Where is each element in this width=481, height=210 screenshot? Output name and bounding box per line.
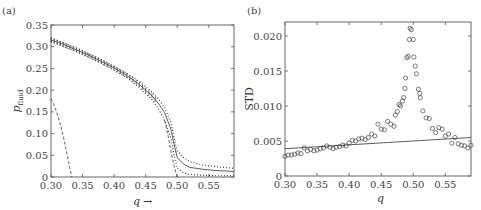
panel-b-series — [283, 26, 473, 158]
panel-a-line-series — [51, 99, 72, 177]
data-point — [373, 134, 377, 138]
panel-a-y-tick-label: 0.35 — [26, 20, 48, 31]
data-point — [403, 86, 407, 90]
panel-a-y-tick-label: 0.20 — [26, 85, 48, 96]
panel-a-axes-frame — [51, 25, 234, 177]
panel-b-y-tick-label: 0.010 — [253, 101, 282, 112]
panel-a-line-series — [51, 38, 234, 168]
data-point — [392, 124, 396, 128]
panel-a-x-tick-label: 0.45 — [135, 180, 157, 191]
panel-a-line-series — [51, 42, 234, 176]
panel-b-x-tick-label: 0.50 — [402, 179, 424, 190]
data-point — [376, 122, 380, 126]
panel-a-x-tick-label: 0.30 — [40, 180, 62, 191]
panel-a-x-ticks: 0.300.350.400.450.500.55 — [40, 25, 220, 191]
data-point — [395, 110, 399, 114]
panel-b-y-axis-label: STD — [243, 87, 256, 111]
data-point — [446, 132, 450, 136]
data-point — [412, 55, 416, 59]
panel-b-y-tick-label: 0.020 — [253, 31, 282, 42]
panel-a-y-tick-label: 0.05 — [26, 150, 48, 161]
panel-b-y-tick-label: 0.015 — [253, 66, 282, 77]
data-point — [430, 126, 434, 130]
data-point — [414, 72, 418, 76]
panel-b-x-tick-label: 0.55 — [434, 179, 456, 190]
svg-text:pfluid: pfluid — [10, 89, 25, 112]
panel-a-x-tick-label: 0.40 — [103, 180, 125, 191]
panel-b-y-tick-label: 0.005 — [253, 136, 282, 147]
panel-a-line-series — [51, 40, 234, 172]
data-point — [418, 91, 422, 95]
panel-a-label: (a) — [2, 5, 16, 16]
data-point — [366, 135, 370, 139]
panel-b-y-ticks: 00.0050.0100.0150.020 — [253, 31, 471, 182]
data-point — [421, 109, 425, 113]
data-point — [434, 131, 438, 135]
panel-a-x-axis-label: q→ — [133, 195, 152, 208]
data-point — [453, 135, 457, 139]
data-point — [418, 96, 422, 100]
panel-b-x-axis-label: q — [377, 192, 384, 205]
panel-b-x-tick-label: 0.30 — [274, 179, 296, 190]
data-point — [403, 76, 407, 80]
data-point — [416, 87, 420, 91]
panel-a-x-tick-label: 0.50 — [166, 180, 188, 191]
panel-a-x-tick-label: 0.55 — [198, 180, 220, 191]
panel-b-line-series — [285, 138, 471, 149]
panel-b-x-ticks: 0.300.350.400.450.500.55 — [274, 22, 457, 190]
data-point — [450, 141, 454, 145]
panel-a-x-tick-label: 0.35 — [71, 180, 93, 191]
panel-b-chart: (b) 00.0050.0100.0150.020 0.300.350.400.… — [243, 5, 473, 205]
panel-a-chart: (a) 00.050.100.150.200.250.300.35 0.300.… — [2, 5, 234, 208]
panel-b-x-tick-label: 0.45 — [370, 179, 392, 190]
panel-a-y-tick-label: 0.25 — [26, 63, 48, 74]
panel-a-y-tick-label: 0.10 — [26, 128, 48, 139]
data-point — [413, 64, 417, 68]
panel-a-series — [51, 37, 234, 177]
panel-b-label: (b) — [247, 5, 261, 16]
figure: (a) 00.050.100.150.200.250.300.35 0.300.… — [0, 0, 481, 210]
panel-b-x-tick-label: 0.35 — [306, 179, 328, 190]
panel-a-y-axis-label: pfluid — [10, 89, 25, 112]
panel-a-y-tick-label: 0.15 — [26, 106, 48, 117]
svg-text:STD: STD — [243, 87, 256, 111]
panel-a-y-tick-label: 0.30 — [26, 41, 48, 52]
panel-b-x-tick-label: 0.40 — [338, 179, 360, 190]
